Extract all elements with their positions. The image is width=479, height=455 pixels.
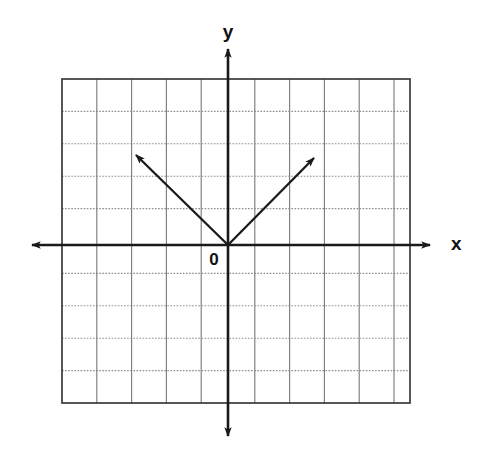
coordinate-plane-svg: x y 0 <box>0 0 479 455</box>
x-axis-label: x <box>451 233 462 254</box>
figure-background <box>0 0 479 455</box>
origin-label: 0 <box>209 250 218 269</box>
y-axis-label: y <box>223 21 234 42</box>
coordinate-plane-figure: x y 0 <box>0 0 479 455</box>
